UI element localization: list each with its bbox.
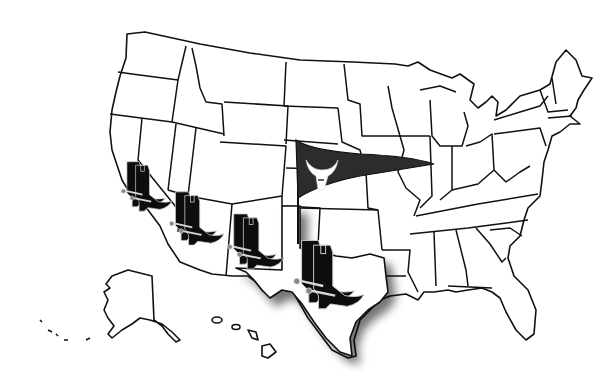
hawaii-inset <box>212 317 276 358</box>
us-map-illustration: United States map with cowboy boots and … <box>0 0 606 384</box>
alaska-inset <box>40 270 180 342</box>
